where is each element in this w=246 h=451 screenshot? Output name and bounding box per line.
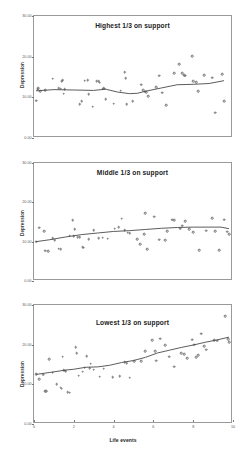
y-tick-label: 20.00 — [22, 343, 34, 347]
x-axis-label: Life events — [0, 437, 246, 443]
panel-highest-support: Depression Highest 1/3 on support 0.0010… — [0, 0, 246, 150]
y-tick-label: 20.00 — [22, 200, 34, 204]
trend-line — [34, 163, 233, 281]
y-tick-label: 30.00 — [22, 14, 34, 18]
y-axis-label: Depression — [20, 210, 25, 236]
depression-life-events-figure: Depression Highest 1/3 on support 0.0010… — [0, 0, 246, 451]
plot-area: Highest 1/3 on support 0.0010.0020.0030.… — [33, 15, 232, 137]
y-axis-label: Depression — [20, 62, 25, 88]
y-tick-label: 30.00 — [22, 161, 34, 165]
panel-lowest-support: Depression Lowest 1/3 on support 0.0010.… — [0, 296, 246, 451]
y-tick-label: 0.00 — [24, 279, 34, 283]
y-tick-label: 20.00 — [22, 55, 34, 59]
y-tick-label: 0.00 — [24, 136, 34, 140]
plot-area: Lowest 1/3 on support 0.0010.0020.0030.0… — [33, 304, 232, 423]
trend-line — [34, 305, 233, 424]
y-tick-label: 30.00 — [22, 303, 34, 307]
y-tick-label: 10.00 — [22, 240, 34, 244]
plot-area: Middle 1/3 on support 0.0010.0020.0030.0… — [33, 162, 232, 280]
y-tick-label: 10.00 — [22, 95, 34, 99]
y-tick-label: 10.00 — [22, 382, 34, 386]
panel-middle-support: Depression Middle 1/3 on support 0.0010.… — [0, 150, 246, 296]
trend-line — [34, 16, 233, 138]
